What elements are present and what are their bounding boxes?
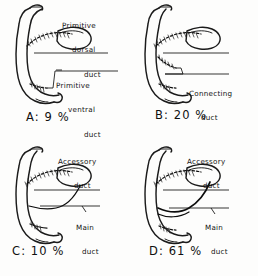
label-line: Primitive <box>62 22 126 30</box>
label-line: duct <box>187 182 255 190</box>
label-line: duct <box>76 248 126 256</box>
panel-caption-b: B: 20 % <box>155 108 207 122</box>
dorsal-duct-b <box>154 32 201 49</box>
panel-a: Primitive dorsal duct Primitive ventral … <box>0 0 129 138</box>
label-line: Primitive <box>56 82 126 90</box>
label-main-duct-c: Main duct <box>76 208 126 273</box>
label-main-duct-d: Main duct <box>205 208 255 273</box>
panel-c: Accessory duct Main duct C: 10 % <box>0 138 129 276</box>
label-line: duct <box>58 182 126 190</box>
label-line: Main <box>205 224 255 232</box>
label-accessory-duct-c: Accessory duct <box>58 142 126 207</box>
panel-caption-c: C: 10 % <box>12 244 64 258</box>
duodenum-outline-c <box>16 147 62 243</box>
panel-caption-d: D: 61 % <box>149 244 202 258</box>
label-accessory-duct-d: Accessory duct <box>187 142 255 207</box>
label-line: Accessory <box>58 158 126 166</box>
label-line: dorsal <box>62 46 126 54</box>
pancreas-body-b <box>186 27 220 49</box>
label-line: Accessory <box>187 158 255 166</box>
label-connecting-duct-b: Connecting duct <box>167 74 255 139</box>
panel-b: Connecting duct B: 20 % <box>129 0 258 138</box>
label-line: duct <box>205 248 255 256</box>
pancreatic-duct-variations-figure: Primitive dorsal duct Primitive ventral … <box>0 0 258 276</box>
label-line: Main <box>76 224 126 232</box>
panel-caption-a: A: 9 % <box>26 110 70 124</box>
panel-d: Accessory duct Main duct D: 61 % <box>129 138 258 276</box>
label-line: Connecting <box>167 90 255 98</box>
